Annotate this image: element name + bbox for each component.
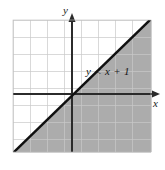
- y-axis-arrowhead: [69, 13, 76, 22]
- inequality-label: y < x + 1: [86, 66, 130, 77]
- coordinate-plane: [0, 0, 165, 170]
- inequality-graph-figure: y x y < x + 1: [0, 0, 165, 170]
- y-axis-label: y: [63, 5, 68, 16]
- x-axis-label: x: [153, 98, 158, 109]
